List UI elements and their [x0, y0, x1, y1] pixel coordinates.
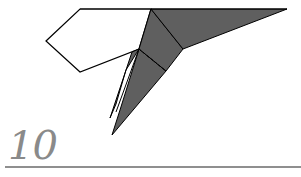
divider-rule [5, 166, 301, 168]
step-number: 10 [8, 125, 57, 165]
